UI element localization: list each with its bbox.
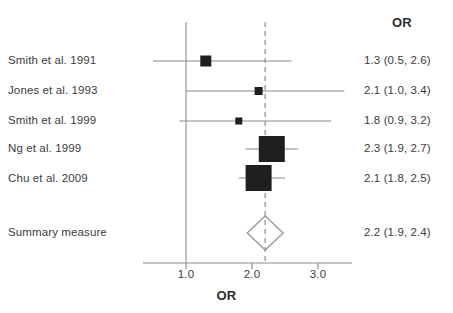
point-estimate-marker-row-2 [235,118,242,125]
point-estimate-marker-row-3 [259,136,285,162]
or-value-row-3: 2.3 (1.9, 2.7) [364,142,431,155]
or-value-row-4: 2.1 (1.8, 2.5) [364,172,431,185]
point-estimate-marker-row-4 [246,165,272,191]
study-label-row-3: Ng et al. 1999 [8,142,81,155]
forest-plot-canvas [0,0,453,313]
or-value-row-1: 2.1 (1.0, 3.4) [364,84,431,97]
study-label-row-1: Jones et al. 1993 [8,84,98,97]
point-estimate-marker-row-1 [255,87,263,95]
summary-diamond-marker [247,216,283,250]
or-value-row-2: 1.8 (0.9, 3.2) [364,114,431,127]
or-value-summary: 2.2 (1.9, 2.4) [364,226,431,239]
column-header-or: OR [392,15,412,30]
study-label-row-4: Chu et al. 2009 [8,172,88,185]
study-label-row-2: Smith et al. 1999 [8,114,96,127]
x-tick-label-2: 2.0 [244,268,260,280]
x-tick-label-3: 3.0 [310,268,326,280]
forest-plot: OR Smith et al. 1991 Jones et al. 1993 S… [0,0,453,313]
x-axis-title: OR [0,288,453,303]
study-label-row-0: Smith et al. 1991 [8,54,96,67]
point-estimate-marker-row-0 [200,56,211,67]
study-label-summary: Summary measure [8,226,107,239]
x-tick-label-1: 1.0 [178,268,194,280]
or-value-row-0: 1.3 (0.5, 2.6) [364,54,431,67]
